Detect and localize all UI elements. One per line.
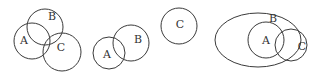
diagram-a-inside-b-c-overlapping: BAC: [215, 12, 307, 67]
set-b-circle: [215, 13, 301, 67]
set-a-label: A: [261, 34, 271, 47]
set-c-label: C: [57, 41, 65, 54]
set-b-circle: [27, 9, 63, 45]
venn-diagrams-canvas: ABCABCBAC: [0, 0, 332, 74]
set-c-label: C: [298, 40, 306, 53]
diagram-two-overlapping-one-separate: ABC: [93, 8, 197, 69]
set-c-label: C: [176, 18, 184, 31]
set-b-label: B: [269, 12, 277, 25]
diagram-three-overlapping-chain: ABC: [14, 9, 81, 71]
set-b-label: B: [134, 33, 142, 46]
set-b-label: B: [48, 10, 56, 23]
set-a-label: A: [102, 48, 112, 61]
set-b-circle: [113, 25, 149, 61]
set-a-label: A: [19, 34, 29, 47]
